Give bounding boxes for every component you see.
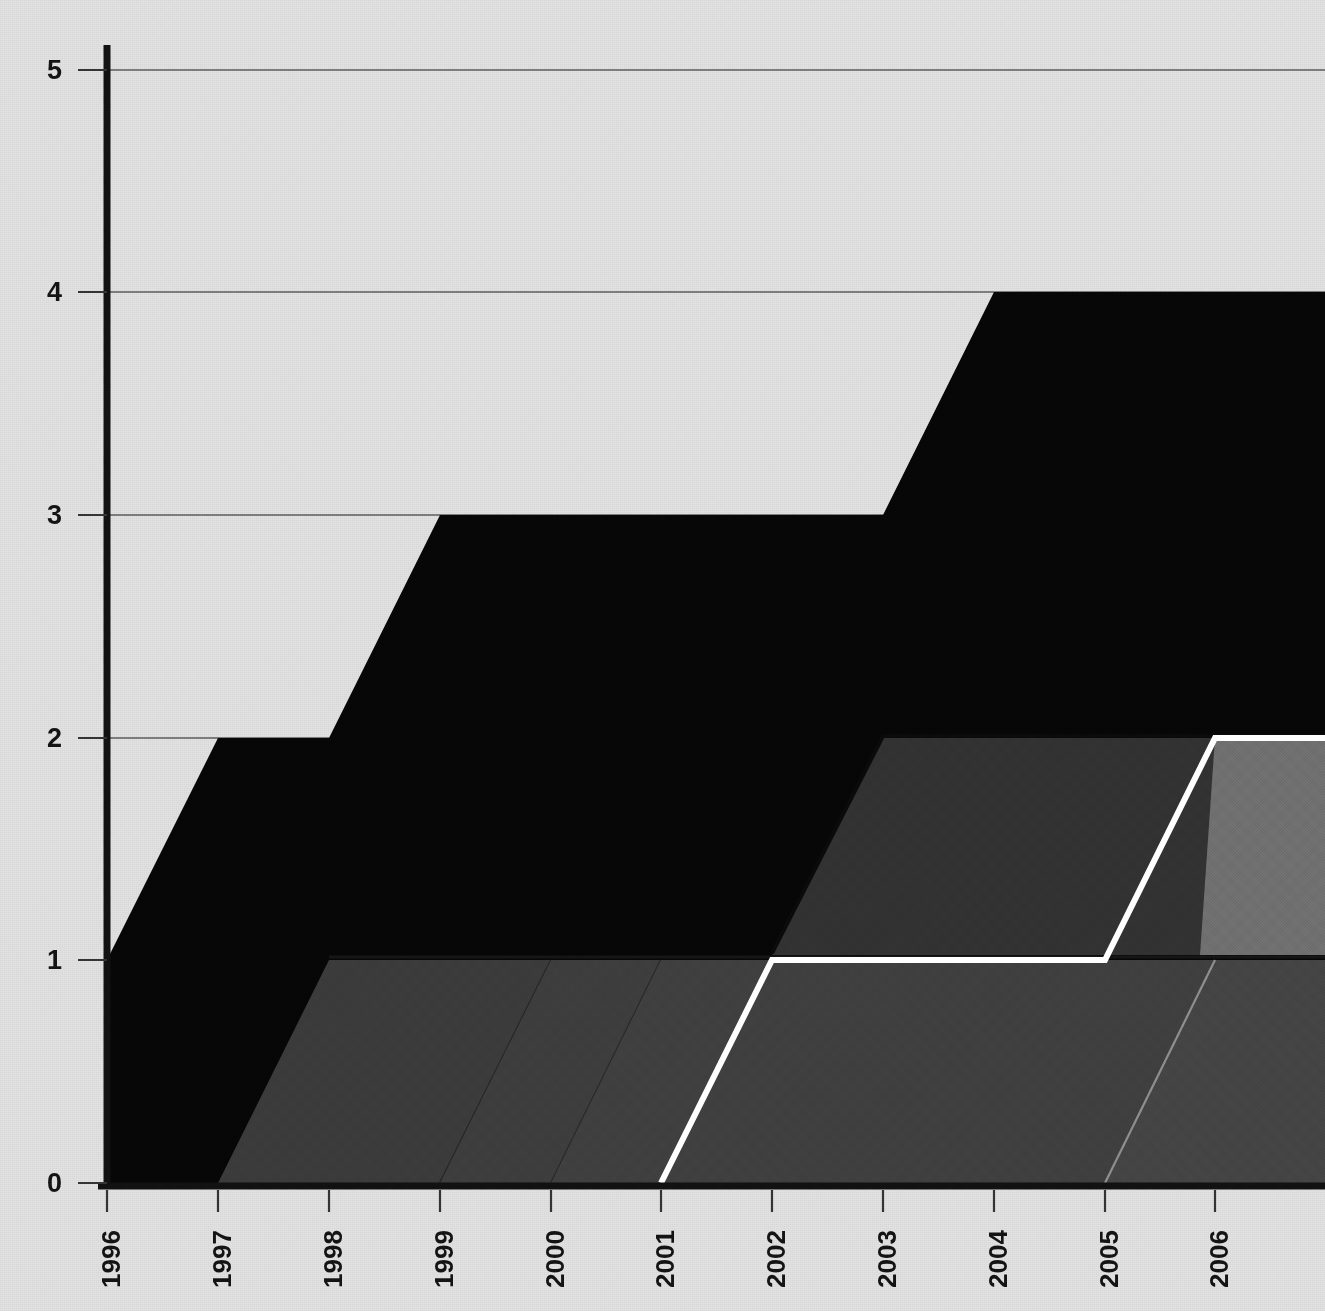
stacked-area-chart — [0, 0, 1325, 1311]
y-tick-label-1: 1 — [18, 945, 62, 976]
area-light-wedge-upper — [1200, 738, 1325, 955]
x-tick-label-2006: 2006 — [1204, 1230, 1235, 1288]
x-tick-label-1996: 1996 — [96, 1230, 127, 1288]
x-tick-marks — [107, 1190, 1215, 1212]
x-tick-label-2004: 2004 — [983, 1230, 1014, 1288]
y-tick-marks — [78, 70, 107, 1183]
y-tick-label-2: 2 — [18, 723, 62, 754]
x-tick-label-2002: 2002 — [761, 1230, 792, 1288]
x-tick-label-1997: 1997 — [207, 1230, 238, 1288]
y-tick-label-0: 0 — [18, 1168, 62, 1199]
x-tick-label-2001: 2001 — [650, 1230, 681, 1288]
chart-page: 5 4 3 2 1 0 1996 1997 1998 1999 2000 200… — [0, 0, 1325, 1311]
y-tick-label-3: 3 — [18, 500, 62, 531]
x-tick-label-2003: 2003 — [872, 1230, 903, 1288]
y-tick-label-5: 5 — [18, 55, 62, 86]
y-tick-label-4: 4 — [18, 277, 62, 308]
x-tick-label-2000: 2000 — [540, 1230, 571, 1288]
x-tick-label-2005: 2005 — [1094, 1230, 1125, 1288]
x-tick-label-1998: 1998 — [318, 1230, 349, 1288]
x-tick-label-1999: 1999 — [429, 1230, 460, 1288]
